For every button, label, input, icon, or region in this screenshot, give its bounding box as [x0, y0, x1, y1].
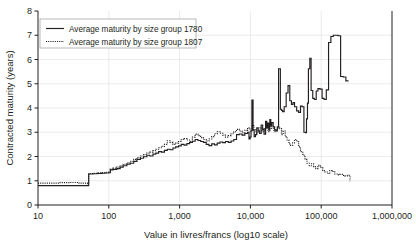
y-tick-label: 5: [27, 79, 32, 89]
x-tick-label: 100: [101, 211, 116, 221]
y-axis-tick-labels: 012345678: [27, 6, 32, 210]
legend: Average maturity by size group 1780Avera…: [40, 19, 203, 48]
data-series: [38, 35, 350, 185]
x-axis-tick-labels: 101001,00010,000100,0001,000,000: [33, 211, 412, 221]
x-tick-label: 10: [33, 211, 43, 221]
x-tick-label: 10,000: [237, 211, 265, 221]
chart-container: 012345678 101001,00010,000100,0001,000,0…: [0, 0, 416, 249]
y-tick-label: 1: [27, 176, 32, 186]
y-tick-label: 0: [27, 200, 32, 210]
series-line-1: [38, 35, 349, 185]
y-tick-label: 3: [27, 127, 32, 137]
y-axis-title: Contracted maturity (years): [4, 50, 15, 165]
legend-label-1: Average maturity by size group 1780: [69, 25, 203, 34]
y-tick-label: 7: [27, 30, 32, 40]
y-tick-label: 6: [27, 55, 32, 65]
y-tick-label: 8: [27, 6, 32, 16]
series-line-2: [38, 125, 350, 184]
x-tick-label: 100,000: [305, 211, 338, 221]
legend-label-2: Average maturity by size group 1807: [69, 38, 203, 47]
y-tick-label: 2: [27, 152, 32, 162]
maturity-line-chart: 012345678 101001,00010,000100,0001,000,0…: [0, 0, 416, 249]
x-axis-title: Value in livres/francs (log10 scale): [144, 229, 288, 240]
x-tick-label: 1,000: [168, 211, 191, 221]
x-tick-label: 1,000,000: [372, 211, 412, 221]
y-tick-label: 4: [27, 103, 32, 113]
